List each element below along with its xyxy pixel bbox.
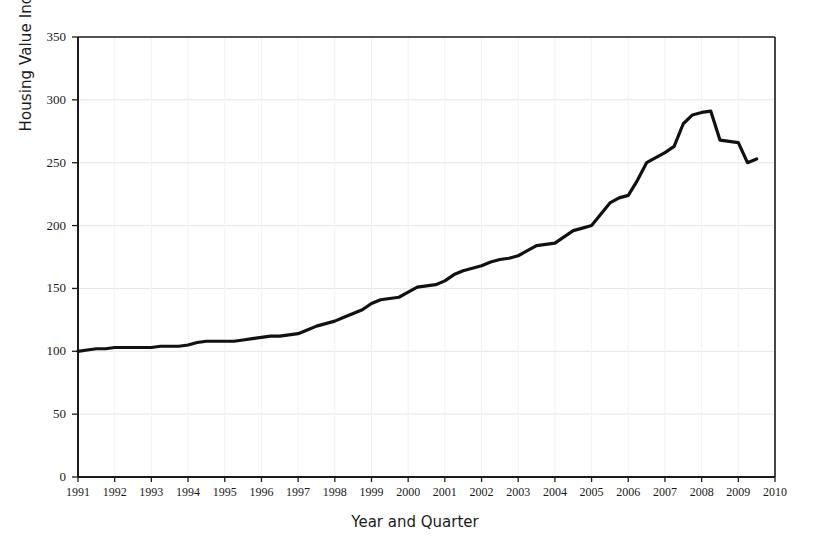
y-tick-label: 350 — [20, 31, 66, 43]
series-housing-value-index — [78, 111, 757, 351]
axis-frame — [78, 37, 775, 477]
x-tick-label: 2010 — [752, 486, 798, 498]
gridlines — [78, 37, 775, 477]
y-tick-label: 250 — [20, 157, 66, 169]
plot-area — [0, 0, 830, 553]
y-tick-label: 50 — [20, 408, 66, 420]
data-line — [78, 111, 757, 351]
axis-ticks — [72, 37, 775, 482]
y-tick-label: 200 — [20, 220, 66, 232]
y-tick-label: 100 — [20, 345, 66, 357]
y-tick-label: 150 — [20, 282, 66, 294]
housing-value-index-chart: Housing Value Index Year and Quarter 050… — [0, 0, 830, 553]
y-tick-label: 0 — [20, 471, 66, 483]
y-tick-label: 300 — [20, 94, 66, 106]
